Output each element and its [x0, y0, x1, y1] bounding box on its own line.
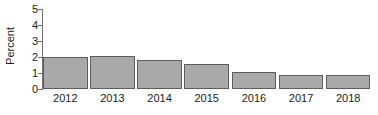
bar-chart: Percent 012345 2012201320142015201620172…	[0, 0, 378, 115]
bar	[326, 75, 371, 89]
y-tick-label: 5	[18, 4, 38, 15]
bar-group	[232, 9, 277, 89]
y-tick-label: 1	[18, 68, 38, 79]
bar-group	[279, 9, 324, 89]
y-tick-label: 2	[18, 52, 38, 63]
bar-group	[184, 9, 229, 89]
x-tick-label: 2014	[137, 93, 182, 104]
bar-group	[326, 9, 371, 89]
x-tick-label: 2017	[279, 93, 324, 104]
bar	[184, 64, 229, 89]
y-axis-title: Percent	[0, 0, 20, 92]
y-axis-tick-labels: 012345	[18, 0, 38, 115]
y-tick-label: 4	[18, 20, 38, 31]
x-tick-label: 2012	[43, 93, 88, 104]
bar	[90, 56, 135, 89]
bar	[137, 60, 182, 89]
bar-group	[43, 9, 88, 89]
y-tick-label: 0	[18, 84, 38, 95]
x-tick-label: 2013	[90, 93, 135, 104]
x-tick-label: 2015	[184, 93, 229, 104]
bar	[43, 57, 88, 89]
y-axis-title-text: Percent	[4, 27, 16, 65]
y-tick-label: 3	[18, 36, 38, 47]
plot-area	[43, 9, 373, 89]
x-tick-label: 2016	[232, 93, 277, 104]
bar-group	[90, 9, 135, 89]
bar	[232, 72, 277, 89]
bar	[279, 75, 324, 89]
x-tick-label: 2018	[326, 93, 371, 104]
bar-group	[137, 9, 182, 89]
